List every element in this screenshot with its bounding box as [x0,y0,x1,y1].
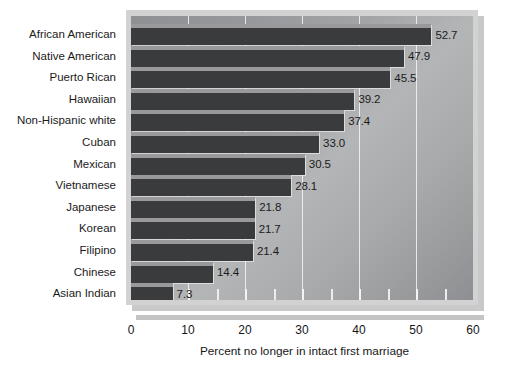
category-label: Native American [32,46,116,67]
bar[interactable] [131,154,305,175]
bar[interactable] [131,89,354,110]
bar-highlight [131,218,255,222]
category-label: African American [29,24,116,45]
bar[interactable] [131,175,291,196]
x-tick-label-50: 50 [409,323,422,337]
bar-row: 14.4 [131,262,473,283]
category-label: Filipino [80,240,116,261]
x-tick-label-40: 40 [352,323,365,337]
bar[interactable] [131,240,253,261]
bar-highlight [131,46,404,50]
category-label: Non-Hispanic white [17,110,116,131]
bar-highlight [131,283,173,287]
bar-value-label: 21.8 [259,201,281,213]
bar-value-label: 33.0 [323,137,345,149]
bar-row: 47.9 [131,46,473,67]
category-label: Vietnamese [55,175,116,196]
plot-area: 52.747.945.539.237.433.030.528.121.821.7… [131,16,473,300]
bar[interactable] [131,197,255,218]
bar-value-label: 45.5 [394,72,416,84]
bar-row: 45.5 [131,67,473,88]
plot-frame: 52.747.945.539.237.433.030.528.121.821.7… [126,10,478,305]
bar-row: 39.2 [131,89,473,110]
category-label: Asian Indian [53,283,116,304]
category-label: Mexican [73,154,116,175]
bar-row: 28.1 [131,175,473,196]
category-label: Cuban [82,132,116,153]
bar-row: 21.7 [131,218,473,239]
bars-layer: 52.747.945.539.237.433.030.528.121.821.7… [131,16,473,300]
bar-value-label: 21.7 [259,223,281,235]
bar-highlight [131,89,354,93]
bar-value-label: 39.2 [358,93,380,105]
bar-row: 52.7 [131,24,473,45]
x-tick-label-10: 10 [181,323,194,337]
category-axis-labels: African AmericanNative AmericanPuerto Ri… [0,10,122,305]
bar[interactable] [131,132,319,153]
bar-row: 37.4 [131,110,473,131]
bar-value-label: 7.3 [177,288,193,300]
bar-highlight [131,67,390,71]
bar-value-label: 47.9 [408,50,430,62]
bar-chart: African AmericanNative AmericanPuerto Ri… [0,0,513,370]
bar[interactable] [131,46,404,67]
bar-row: 7.3 [131,283,473,300]
bar[interactable] [131,24,431,45]
bar-highlight [131,132,319,136]
bar-highlight [131,24,431,28]
bar-row: 33.0 [131,132,473,153]
x-tick-label-30: 30 [295,323,308,337]
bar-highlight [131,154,305,158]
bar[interactable] [131,262,213,283]
category-label: Hawaiian [69,89,116,110]
x-tick-label-20: 20 [238,323,251,337]
x-axis-bar [136,315,484,320]
bar-row: 30.5 [131,154,473,175]
bar-row: 21.4 [131,240,473,261]
bar-highlight [131,240,253,244]
bar-value-label: 37.4 [348,115,370,127]
bar-highlight [131,262,213,266]
bar-highlight [131,175,291,179]
x-tick-label-60: 60 [466,323,479,337]
x-tick-label-0: 0 [128,323,135,337]
bar[interactable] [131,218,255,239]
bar-value-label: 52.7 [435,29,457,41]
bar-value-label: 21.4 [257,245,279,257]
bar-value-label: 30.5 [309,158,331,170]
category-label: Korean [79,218,116,239]
category-label: Puerto Rican [50,67,116,88]
category-label: Chinese [74,262,116,283]
bar[interactable] [131,283,173,300]
bar-row: 21.8 [131,197,473,218]
bar[interactable] [131,67,390,88]
x-axis-title-text: Percent no longer in intact first marria… [104,344,409,358]
bar-value-label: 28.1 [295,180,317,192]
bar-highlight [131,197,255,201]
x-axis-title: Percent no longer in intact first marria… [0,344,513,358]
category-label: Japanese [66,197,116,218]
bar-highlight [131,110,344,114]
bar-value-label: 14.4 [217,266,239,278]
bar[interactable] [131,110,344,131]
